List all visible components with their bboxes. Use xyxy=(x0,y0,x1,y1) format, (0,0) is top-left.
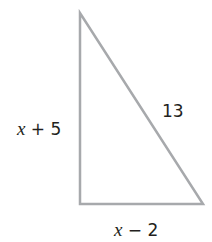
hypotenuse-label: 13 xyxy=(162,101,184,121)
bottom-side-label: x − 2 xyxy=(113,219,158,240)
left-side-label: x + 5 xyxy=(16,118,61,139)
right-triangle xyxy=(80,13,203,204)
triangle-diagram: x + 5 13 x − 2 xyxy=(0,0,212,242)
